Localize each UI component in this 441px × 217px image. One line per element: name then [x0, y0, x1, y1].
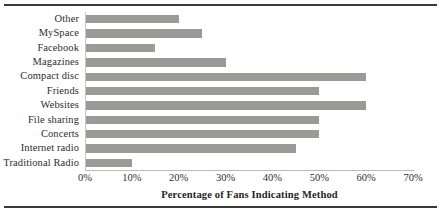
x-tick-label: 30% [206, 172, 246, 183]
figure-container: OtherMySpaceFacebookMagazinesCompact dis… [0, 0, 441, 217]
bar [85, 130, 319, 138]
bar-row: Friends [0, 84, 441, 98]
bar [85, 144, 296, 152]
bar [85, 159, 132, 167]
bar-track [85, 69, 413, 83]
category-label: Compact disc [0, 69, 79, 83]
category-label: File sharing [0, 113, 79, 127]
bar-track [85, 156, 413, 170]
bar-row: Internet radio [0, 141, 441, 155]
bar-row: Other [0, 12, 441, 26]
bar-row: Websites [0, 98, 441, 112]
bar-row: Compact disc [0, 69, 441, 83]
bar-track [85, 55, 413, 69]
figure-bottom-rule [4, 206, 437, 208]
x-tick-label: 0% [65, 172, 105, 183]
category-label: Friends [0, 84, 79, 98]
bar-row: Facebook [0, 41, 441, 55]
value-axis-line [85, 170, 414, 171]
bar-track [85, 26, 413, 40]
category-label: Facebook [0, 41, 79, 55]
x-axis-title: Percentage of Fans Indicating Method [85, 189, 414, 200]
bar-track [85, 98, 413, 112]
bar [85, 15, 179, 23]
bar [85, 87, 319, 95]
category-label: Internet radio [0, 141, 79, 155]
x-tick-label: 40% [252, 172, 292, 183]
bar [85, 101, 366, 109]
x-tick-label: 70% [393, 172, 433, 183]
bar-row: MySpace [0, 26, 441, 40]
figure-top-rule [4, 4, 437, 6]
bar-track [85, 12, 413, 26]
bar [85, 44, 155, 52]
category-label: MySpace [0, 26, 79, 40]
bar [85, 116, 319, 124]
category-label: Traditional Radio [0, 156, 79, 170]
category-label: Websites [0, 98, 79, 112]
x-tick-label: 20% [159, 172, 199, 183]
category-label: Other [0, 12, 79, 26]
bar-row: Concerts [0, 127, 441, 141]
category-label: Concerts [0, 127, 79, 141]
bar [85, 29, 202, 37]
bar-track [85, 141, 413, 155]
bar [85, 58, 226, 66]
x-tick-label: 60% [346, 172, 386, 183]
x-axis-tick-labels: 0%10%20%30%40%50%60%70% [0, 172, 441, 188]
bar-row: File sharing [0, 113, 441, 127]
bar-track [85, 41, 413, 55]
bar-track [85, 113, 413, 127]
bar-chart-plot-area: OtherMySpaceFacebookMagazinesCompact dis… [0, 12, 441, 170]
bar-track [85, 127, 413, 141]
x-tick-label: 10% [112, 172, 152, 183]
bar-row: Magazines [0, 55, 441, 69]
category-axis-line [85, 12, 86, 170]
x-tick-label: 50% [299, 172, 339, 183]
bar-track [85, 84, 413, 98]
category-label: Magazines [0, 55, 79, 69]
bar-row: Traditional Radio [0, 156, 441, 170]
bar [85, 73, 366, 81]
